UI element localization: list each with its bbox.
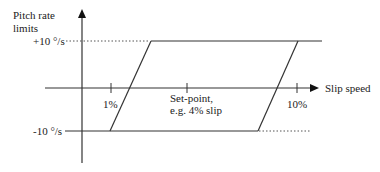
left-ramp-line bbox=[110, 41, 151, 131]
tick-label-10-percent: 10% bbox=[287, 98, 307, 110]
tick-label-1-percent: 1% bbox=[103, 98, 118, 110]
tick-label-setpoint-line2: e.g. 4% slip bbox=[170, 104, 222, 116]
y-axis-label-line2: limits bbox=[13, 22, 38, 34]
diagram-graphics bbox=[0, 0, 380, 172]
upper-limit-label: +10 °/s bbox=[33, 35, 65, 47]
right-ramp-line bbox=[258, 41, 298, 131]
x-axis-arrow-icon bbox=[310, 84, 319, 92]
pitch-rate-limit-diagram: Pitch rate limits +10 °/s -10 °/s 1% Set… bbox=[0, 0, 380, 172]
y-axis-label-line1: Pitch rate bbox=[13, 9, 55, 21]
tick-label-setpoint-line1: Set-point, bbox=[170, 92, 213, 104]
x-axis-label: Slip speed bbox=[325, 82, 371, 94]
lower-limit-label: -10 °/s bbox=[33, 125, 62, 137]
y-axis-arrow-icon bbox=[78, 9, 86, 18]
